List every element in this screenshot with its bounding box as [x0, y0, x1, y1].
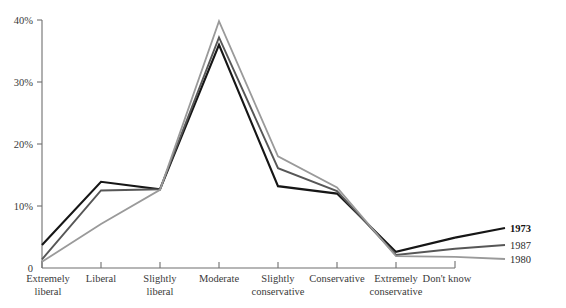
x-axis-category-line: Extremely [26, 273, 70, 284]
y-axis-tick-label: 40% [14, 15, 34, 26]
x-axis-category-label: Moderate [199, 273, 240, 284]
x-axis-category-line: liberal [35, 286, 62, 297]
x-axis-category-line: Extremely [374, 273, 418, 284]
x-axis-category-line: Liberal [86, 273, 116, 284]
x-axis-category-line: Moderate [199, 273, 240, 284]
x-axis-category-label: Extremelyconservative [369, 273, 422, 297]
x-axis-category-label: Extremelyliberal [26, 273, 70, 297]
x-axis-category-line: Slightly [261, 273, 295, 284]
x-axis-category-line: Don't know [423, 273, 472, 284]
x-axis-category-line: conservative [251, 286, 304, 297]
chart-container: 010%20%30%40% 197319871980 Extremelylibe… [0, 0, 566, 308]
x-axis-category-line: liberal [147, 286, 174, 297]
series-line-1980 [42, 21, 455, 262]
x-axis-category-label: Slightlyconservative [251, 273, 304, 297]
x-axis [42, 261, 455, 268]
x-axis-category-line: Slightly [143, 273, 177, 284]
legend-label-1987: 1987 [510, 240, 531, 251]
x-axis-category-line: Conservative [309, 273, 365, 284]
legend-leader-1973 [455, 228, 505, 238]
x-axis-category-label: Conservative [309, 273, 365, 284]
y-axis: 010%20%30%40% [14, 15, 42, 274]
x-axis-category-label: Liberal [86, 273, 116, 284]
series-lines [42, 21, 455, 262]
y-axis-tick-label: 20% [14, 139, 34, 150]
y-axis-tick-label: 10% [14, 201, 34, 212]
legend-label-1980: 1980 [510, 254, 531, 265]
line-chart-svg: 010%20%30%40% 197319871980 Extremelylibe… [0, 0, 566, 308]
series-line-1973 [42, 45, 455, 252]
series-line-1987 [42, 37, 455, 259]
legend-leader-1980 [455, 257, 505, 259]
x-axis-labels: ExtremelyliberalLiberalSlightlyliberalMo… [26, 273, 472, 297]
y-axis-tick-label: 0 [28, 263, 33, 274]
x-axis-category-label: Slightlyliberal [143, 273, 177, 297]
legend-label-1973: 1973 [510, 223, 531, 234]
y-axis-tick-label: 30% [14, 77, 34, 88]
legend: 197319871980 [455, 223, 531, 265]
x-axis-category-label: Don't know [423, 273, 472, 284]
legend-leader-1987 [455, 245, 505, 249]
x-axis-category-line: conservative [369, 286, 422, 297]
